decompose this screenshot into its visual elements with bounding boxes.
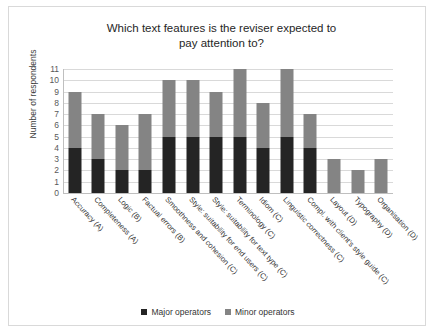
legend-label: Minor operators [235,307,295,317]
stacked-bar[interactable] [304,114,317,193]
bar-segment-minor-operators[interactable] [68,92,81,148]
y-axis-tick-label: 2 [35,166,59,174]
y-axis-tick-label: 11 [35,65,59,73]
y-axis-tick-label: 5 [35,133,59,141]
bar-slot [157,69,181,193]
stacked-bar[interactable] [375,159,388,193]
chart-title: Which text features is the reviser expec… [49,21,394,51]
chart-container: Which text features is the reviser expec… [8,6,426,326]
bar-slot [181,69,205,193]
stacked-bar[interactable] [233,69,246,193]
bar-segment-minor-operators[interactable] [233,69,246,137]
bar-segment-minor-operators[interactable] [92,114,105,159]
legend-item[interactable]: Major operators [141,307,211,317]
bar-slot [87,69,111,193]
bar-segment-minor-operators[interactable] [375,159,388,193]
plot-area [63,69,393,193]
stacked-bar[interactable] [92,114,105,193]
x-axis-line [63,193,393,194]
bar-segment-minor-operators[interactable] [210,92,223,137]
bar-slot [204,69,228,193]
y-axis-tick-label: 10 [35,76,59,84]
x-axis-tick-labels: Accuracy (A)Completeness (A)Logic (B)Fac… [63,195,393,305]
bar-slot [134,69,158,193]
legend-item[interactable]: Minor operators [225,307,295,317]
bar-segment-minor-operators[interactable] [257,103,270,148]
y-axis-tick-label: 0 [35,189,59,197]
bar-segment-minor-operators[interactable] [139,114,152,170]
legend-swatch-icon [225,309,231,315]
y-axis-tick-labels: 11109876543210 [33,69,59,193]
bar-segment-major-operators[interactable] [186,137,199,193]
stacked-bar[interactable] [139,114,152,193]
bar-slot [346,69,370,193]
stacked-bar[interactable] [115,125,128,193]
bar-segment-minor-operators[interactable] [351,170,364,193]
bar-segment-major-operators[interactable] [115,170,128,193]
bar-segment-major-operators[interactable] [139,170,152,193]
y-axis-tick-label: 6 [35,121,59,129]
stacked-bar[interactable] [328,159,341,193]
legend-label: Major operators [151,307,211,317]
bar-segment-major-operators[interactable] [163,137,176,193]
bar-segment-minor-operators[interactable] [328,159,341,193]
stacked-bar[interactable] [163,80,176,193]
bar-slot [228,69,252,193]
legend-swatch-icon [141,309,147,315]
y-axis-tick-label: 1 [35,178,59,186]
y-axis-tick-label: 3 [35,155,59,163]
chart-legend: Major operatorsMinor operators [9,307,427,317]
bar-slot [275,69,299,193]
stacked-bar[interactable] [210,92,223,193]
chart-title-line-2: pay attention to? [49,36,394,51]
bar-segment-minor-operators[interactable] [115,125,128,170]
bar-segment-major-operators[interactable] [210,137,223,193]
bar-slot [110,69,134,193]
bar-segment-minor-operators[interactable] [280,69,293,137]
y-axis-tick-label: 4 [35,144,59,152]
bar-segment-minor-operators[interactable] [304,114,317,148]
stacked-bar[interactable] [186,80,199,193]
y-axis-tick-label: 8 [35,99,59,107]
bar-segment-major-operators[interactable] [92,159,105,193]
bar-segment-major-operators[interactable] [257,148,270,193]
chart-title-line-1: Which text features is the reviser expec… [49,21,394,36]
x-axis-tick-label: Organisation (D) [375,195,420,242]
stacked-bar[interactable] [280,69,293,193]
stacked-bar[interactable] [257,103,270,193]
bar-slot [322,69,346,193]
y-axis-tick-label: 7 [35,110,59,118]
bar-segment-major-operators[interactable] [280,137,293,193]
bar-segment-major-operators[interactable] [233,137,246,193]
bar-slot [299,69,323,193]
y-axis-line [63,69,64,194]
bar-slot [369,69,393,193]
bar-segment-minor-operators[interactable] [163,80,176,136]
bar-slot [252,69,276,193]
stacked-bar[interactable] [351,170,364,193]
bar-segment-major-operators[interactable] [68,148,81,193]
bar-segment-major-operators[interactable] [304,148,317,193]
stacked-bar[interactable] [68,92,81,193]
bar-slot [63,69,87,193]
y-axis-tick-label: 9 [35,88,59,96]
bar-segment-minor-operators[interactable] [186,80,199,136]
